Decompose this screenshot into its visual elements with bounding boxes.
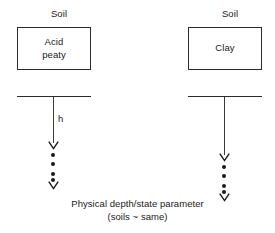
ground-surface-line-left [17,96,91,97]
soil-header-label-right: Soil [188,8,272,20]
soil-box-left: Acid peaty [17,27,91,70]
depth-dot [51,172,55,176]
depth-stem-right [224,97,225,155]
depth-dot [222,174,226,178]
depth-label-h: h [58,113,63,124]
figure-caption: Physical depth/state parameter (soils ~ … [0,198,275,223]
arrowhead-top-right [219,153,230,162]
arrowhead-bottom-left [48,181,59,190]
soil-box-label-left: Acid peaty [42,36,66,61]
ground-surface-line-right [188,96,262,97]
soil-box-label-right: Clay [215,42,234,55]
depth-dot [222,184,226,188]
soil-depth-diagram: Soil Acid peaty h Soil Clay [0,0,275,233]
depth-dot [51,153,55,157]
depth-dot [222,165,226,169]
depth-stem-left [53,97,54,143]
soil-header-label-left: Soil [17,8,101,20]
caption-line-2: (soils ~ same) [0,211,275,224]
soil-box-right: Clay [188,27,262,70]
arrowhead-top-left [48,141,59,150]
depth-dot [51,162,55,166]
caption-line-1: Physical depth/state parameter [71,198,203,209]
